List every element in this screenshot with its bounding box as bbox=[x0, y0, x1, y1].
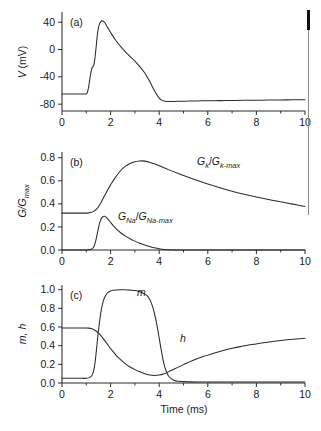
x-tick-label: 8 bbox=[253, 255, 259, 267]
panel-c-label: (c) bbox=[70, 289, 82, 301]
h-curve-label: h bbox=[180, 332, 186, 344]
panel-b-label: (b) bbox=[70, 156, 83, 168]
x-tick-label: 6 bbox=[205, 255, 211, 267]
panel-b-plot: 0.00.20.40.60.8 0246810 (b) Gk/Gk-max GN… bbox=[0, 140, 321, 280]
svg-text:G/Gmax: G/Gmax bbox=[16, 184, 31, 218]
panel-a-y-ticklabels: 400-40-80 bbox=[40, 16, 55, 110]
y-tick-label: -80 bbox=[40, 98, 55, 110]
y-tick-label: 0.0 bbox=[40, 244, 55, 256]
x-tick-label: 0 bbox=[59, 388, 65, 400]
panel-c-y-axis-title: m, h bbox=[16, 324, 28, 345]
x-tick-label: 2 bbox=[108, 255, 114, 267]
panel-b-axes bbox=[62, 152, 305, 250]
y-tick-label: -40 bbox=[40, 70, 55, 82]
x-tick-label: 8 bbox=[253, 388, 259, 400]
x-tick-label: 2 bbox=[108, 116, 114, 128]
panel-c: 0.00.20.40.60.81.0 0246810 (c) m h m, h … bbox=[0, 275, 321, 431]
y-tick-label: 1.0 bbox=[40, 283, 55, 295]
x-tick-label: 0 bbox=[59, 116, 65, 128]
gk-curve-label: Gk/Gk-max bbox=[197, 155, 240, 170]
y-tick-label: 0.4 bbox=[40, 197, 55, 209]
svg-text:V (mV): V (mV) bbox=[16, 46, 28, 79]
m-curve-label: m bbox=[137, 286, 146, 298]
scan-artifact-line bbox=[308, 14, 309, 215]
x-tick-label: 10 bbox=[299, 388, 311, 400]
panel-a: 400-40-80 0246810 (a) V (mV) bbox=[0, 0, 321, 145]
panel-a-y-axis-title: V (mV) bbox=[16, 46, 28, 79]
panel-a-plot: 400-40-80 0246810 (a) V (mV) bbox=[0, 0, 321, 145]
y-tick-label: 0.4 bbox=[40, 339, 55, 351]
x-tick-label: 8 bbox=[253, 116, 259, 128]
x-axis-title: Time (ms) bbox=[161, 403, 208, 415]
voltage-curve bbox=[62, 21, 305, 102]
x-tick-label: 6 bbox=[205, 388, 211, 400]
x-tick-label: 2 bbox=[108, 388, 114, 400]
y-tick-label: 0.2 bbox=[40, 358, 55, 370]
panel-b-y-axis-title: G/Gmax bbox=[16, 184, 31, 218]
potassium-conductance-curve bbox=[62, 161, 305, 213]
y-tick-label: 0.8 bbox=[40, 302, 55, 314]
panel-b-y-ticklabels: 0.00.20.40.60.8 bbox=[40, 151, 55, 255]
y-axis-title-unit-a: (mV) bbox=[16, 46, 28, 72]
x-tick-label: 10 bbox=[299, 255, 311, 267]
y-tick-label: 0.8 bbox=[40, 151, 55, 163]
x-tick-label: 0 bbox=[59, 255, 65, 267]
hodgkin-huxley-figure: 400-40-80 0246810 (a) V (mV) 0.00.20.40.… bbox=[0, 0, 321, 431]
y-tick-label: 0 bbox=[49, 43, 55, 55]
y-tick-label: 0.6 bbox=[40, 174, 55, 186]
panel-c-x-ticklabels: 0246810 bbox=[59, 388, 311, 400]
panel-c-plot: 0.00.20.40.60.81.0 0246810 (c) m h m, h … bbox=[0, 275, 321, 431]
panel-c-y-ticklabels: 0.00.20.40.60.81.0 bbox=[40, 283, 55, 388]
x-tick-label: 4 bbox=[156, 255, 162, 267]
sodium-conductance-curve bbox=[62, 216, 305, 250]
svg-text:m, h: m, h bbox=[16, 324, 28, 345]
x-tick-label: 4 bbox=[156, 116, 162, 128]
panel-b: 0.00.20.40.60.8 0246810 (b) Gk/Gk-max GN… bbox=[0, 140, 321, 280]
panel-b-ticks bbox=[58, 158, 305, 254]
y-tick-label: 0.0 bbox=[40, 377, 55, 389]
y-tick-label: 0.6 bbox=[40, 321, 55, 333]
scan-artifact-block bbox=[307, 10, 310, 30]
gna-curve-label: GNa/GNa-max bbox=[118, 210, 173, 225]
x-tick-label: 4 bbox=[156, 388, 162, 400]
x-tick-label: 10 bbox=[299, 116, 311, 128]
y-tick-label: 0.2 bbox=[40, 221, 55, 233]
panel-b-x-ticklabels: 0246810 bbox=[59, 255, 311, 267]
panel-a-x-ticklabels: 0246810 bbox=[59, 116, 311, 128]
y-tick-label: 40 bbox=[43, 16, 55, 28]
x-tick-label: 6 bbox=[205, 116, 211, 128]
panel-a-label: (a) bbox=[70, 16, 83, 28]
